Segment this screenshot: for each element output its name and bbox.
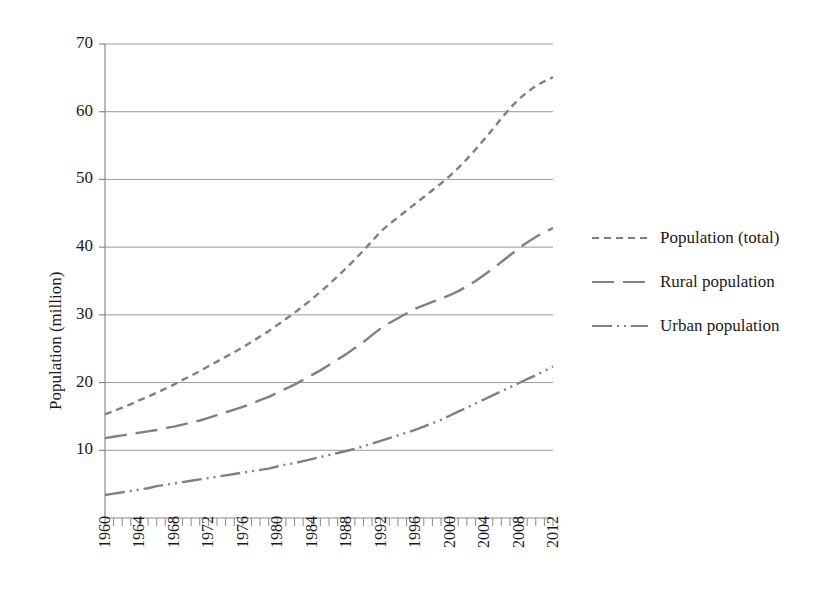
- data-series-group: [105, 77, 553, 495]
- legend-label-population-total: Population (total): [660, 228, 779, 248]
- legend-item-urban-population: Urban population: [592, 304, 828, 348]
- chart-figure: Population (million) 10203040506070 1960…: [0, 0, 836, 600]
- gridlines: [105, 44, 553, 450]
- legend-label-urban-population: Urban population: [660, 316, 779, 336]
- x-tick-label: 1972: [199, 516, 217, 562]
- x-tick-label: 1984: [303, 516, 321, 562]
- y-tick-label: 20: [55, 372, 93, 392]
- y-axis-tick-marks: [99, 44, 105, 450]
- legend-swatch-long-dashed-icon: [592, 275, 648, 289]
- axis-lines: [105, 44, 553, 518]
- x-tick-label: 1980: [268, 516, 286, 562]
- y-tick-label: 60: [55, 101, 93, 121]
- legend-item-population-total: Population (total): [592, 216, 828, 260]
- x-tick-label: 2004: [475, 516, 493, 562]
- chart-legend: Population (total) Rural population Urba…: [592, 216, 828, 348]
- series-line-rural-population: [105, 228, 553, 438]
- legend-swatch-dash-dot-dot-icon: [592, 319, 648, 333]
- x-tick-label: 1968: [165, 516, 183, 562]
- x-tick-label: 2008: [510, 516, 528, 562]
- x-tick-label: 1988: [337, 516, 355, 562]
- x-tick-label: 2000: [441, 516, 459, 562]
- y-tick-label: 40: [55, 236, 93, 256]
- x-tick-label: 1960: [96, 516, 114, 562]
- legend-label-rural-population: Rural population: [660, 272, 775, 292]
- x-tick-label: 2012: [544, 516, 562, 562]
- y-tick-label: 70: [55, 33, 93, 53]
- y-tick-label: 30: [55, 304, 93, 324]
- x-tick-label: 1964: [130, 516, 148, 562]
- x-tick-label: 1992: [372, 516, 390, 562]
- x-tick-label: 1996: [406, 516, 424, 562]
- legend-swatch-dashed-icon: [592, 231, 648, 245]
- legend-item-rural-population: Rural population: [592, 260, 828, 304]
- x-tick-label: 1976: [234, 516, 252, 562]
- y-tick-label: 10: [55, 439, 93, 459]
- y-tick-label: 50: [55, 168, 93, 188]
